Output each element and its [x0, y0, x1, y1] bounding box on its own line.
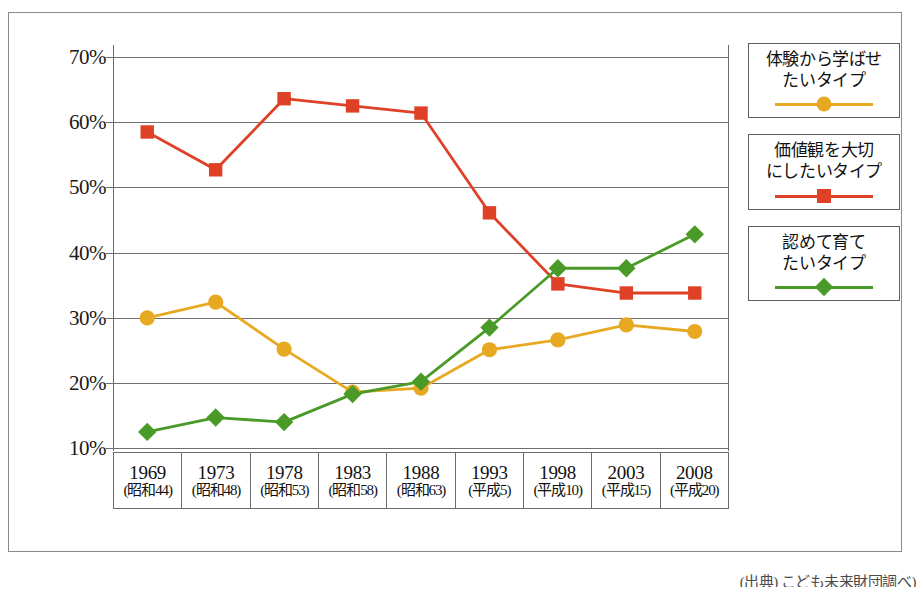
x-axis-cell: 1978(昭和53): [251, 453, 319, 508]
legend-swatch: [753, 279, 895, 295]
legend-item-2[interactable]: 価値観を大切 にしたいタイプ: [748, 134, 900, 209]
y-axis-tick-mark: [106, 448, 113, 449]
x-axis-year-label: 1983: [334, 463, 371, 483]
series-line: [147, 99, 695, 293]
data-point-marker: [617, 259, 635, 277]
x-axis-era-label: (平成5): [468, 483, 510, 499]
x-axis-cell: 1993(平成5): [456, 453, 524, 508]
y-axis-tick-label: 50%: [69, 175, 106, 200]
y-axis-tick-label: 60%: [69, 110, 106, 135]
data-point-marker: [209, 163, 222, 176]
x-axis-year-label: 2008: [676, 463, 713, 483]
y-axis-tick-label: 20%: [69, 371, 106, 396]
legend-item-3[interactable]: 認めて育て たいタイプ: [748, 226, 900, 301]
data-point-marker: [275, 413, 293, 431]
x-axis-cell: 2003(平成15): [592, 453, 660, 508]
data-point-marker: [551, 277, 564, 290]
x-axis-year-label: 1998: [539, 463, 576, 483]
y-axis-tick-mark: [106, 122, 113, 123]
x-axis-cell: 2008(平成20): [661, 453, 728, 508]
source-note: (出典) こども未来財団調べ): [690, 570, 916, 587]
x-axis-labels: 1969(昭和44)1973(昭和48)1978(昭和53)1983(昭和58)…: [113, 452, 729, 509]
legend-item-label: 認めて育て たいタイプ: [753, 233, 895, 274]
data-point-marker: [141, 125, 154, 138]
y-axis-tick-mark: [106, 253, 113, 254]
x-axis-year-label: 2003: [608, 463, 645, 483]
legend-marker-square-icon: [817, 189, 831, 203]
x-axis-cell: 1998(平成10): [524, 453, 592, 508]
data-point-marker: [483, 206, 496, 219]
x-axis-year-label: 1969: [129, 463, 166, 483]
x-axis-era-label: (昭和44): [123, 483, 171, 499]
chart-figure: 10%20%30%40%50%60%70% 1969(昭和44)1973(昭和4…: [8, 12, 902, 552]
data-point-marker: [414, 106, 427, 119]
data-point-marker: [687, 324, 702, 339]
x-axis-era-label: (昭和53): [260, 483, 308, 499]
data-point-marker: [620, 286, 633, 299]
legend-marker-circle-icon: [817, 97, 832, 112]
x-axis-era-label: (昭和63): [397, 483, 445, 499]
x-axis-cell: 1988(昭和63): [387, 453, 455, 508]
legend-swatch: [753, 96, 895, 112]
data-point-marker: [206, 408, 224, 426]
x-axis-year-label: 1973: [198, 463, 235, 483]
x-axis-year-label: 1978: [266, 463, 303, 483]
y-axis-tick-label: 40%: [69, 240, 106, 265]
x-axis-era-label: (昭和48): [192, 483, 240, 499]
y-axis-tick-label: 10%: [69, 436, 106, 461]
x-axis-era-label: (平成15): [602, 483, 650, 499]
data-point-marker: [208, 295, 223, 310]
chart-legend: 体験から学ばせ たいタイプ価値観を大切 にしたいタイプ認めて育て たいタイプ: [748, 43, 900, 317]
y-axis-tick-mark: [106, 187, 113, 188]
data-point-marker: [277, 341, 292, 356]
x-axis-era-label: (平成10): [533, 483, 581, 499]
x-axis-era-label: (平成20): [670, 483, 718, 499]
x-axis-cell: 1983(昭和58): [319, 453, 387, 508]
plot-wrapper: 10%20%30%40%50%60%70%: [113, 45, 729, 451]
legend-item-label: 体験から学ばせ たいタイプ: [753, 50, 895, 91]
y-axis-tick-mark: [106, 318, 113, 319]
x-axis-cell: 1973(昭和48): [182, 453, 250, 508]
y-axis-tick-mark: [106, 57, 113, 58]
y-axis-tick-label: 30%: [69, 305, 106, 330]
y-axis-tick-label: 70%: [69, 45, 106, 70]
legend-swatch: [753, 188, 895, 204]
data-point-marker: [346, 99, 359, 112]
data-point-marker: [140, 310, 155, 325]
series-layer: [113, 45, 729, 451]
legend-marker-diamond-icon: [815, 278, 833, 296]
data-point-marker: [688, 286, 701, 299]
data-point-marker: [277, 92, 290, 105]
data-point-marker: [550, 332, 565, 347]
data-point-marker: [138, 423, 156, 441]
x-axis-year-label: 1988: [403, 463, 440, 483]
series-line: [147, 234, 695, 432]
legend-item-label: 価値観を大切 にしたいタイプ: [753, 141, 895, 182]
data-point-marker: [619, 317, 634, 332]
x-axis-year-label: 1993: [471, 463, 508, 483]
x-axis-era-label: (昭和58): [328, 483, 376, 499]
x-axis-cell: 1969(昭和44): [114, 453, 182, 508]
y-axis-tick-mark: [106, 383, 113, 384]
data-point-marker: [686, 225, 704, 243]
data-point-marker: [482, 342, 497, 357]
legend-item-1[interactable]: 体験から学ばせ たいタイプ: [748, 43, 900, 118]
